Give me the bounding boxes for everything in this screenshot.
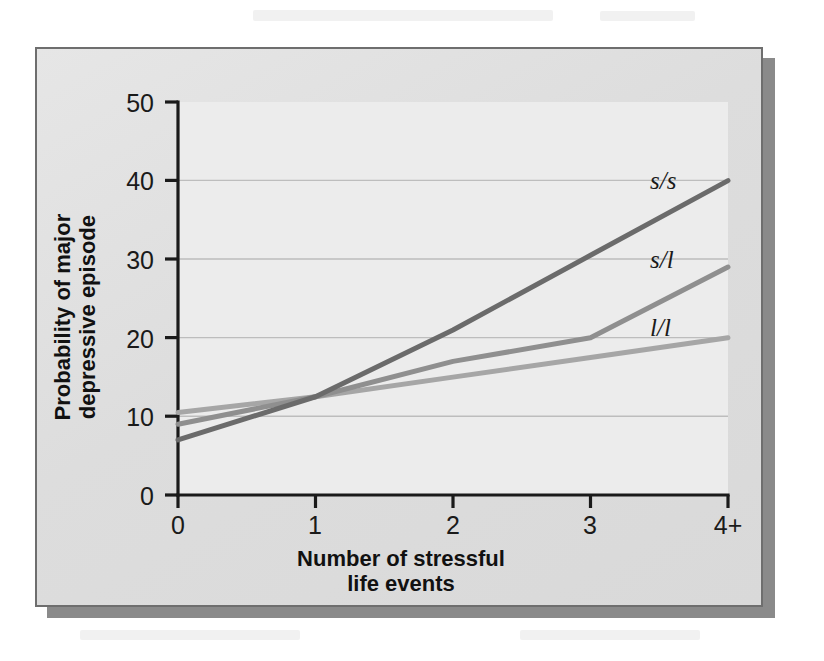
figure-plate: 50 40 30 20 10 0 0 1 2 3 4+ s/s s/l l/l … xyxy=(35,47,763,607)
y-tick-label-30: 30 xyxy=(99,246,154,275)
x-tick-label-4plus: 4+ xyxy=(698,511,758,540)
plot-background xyxy=(178,102,728,495)
y-tick-label-20: 20 xyxy=(99,325,154,354)
x-axis-title-line2: life events xyxy=(37,572,765,597)
x-axis-title-line1: Number of stressful xyxy=(37,547,765,572)
series-label-ss: s/s xyxy=(650,167,676,195)
y-tick-label-10: 10 xyxy=(99,403,154,432)
x-tick-label-1: 1 xyxy=(285,511,345,540)
series-label-sl: s/l xyxy=(650,246,674,274)
y-tick-label-40: 40 xyxy=(99,167,154,196)
x-axis-title: Number of stressful life events xyxy=(37,547,765,596)
y-tick-label-0: 0 xyxy=(99,482,154,511)
x-axis-ticks xyxy=(178,495,728,508)
x-tick-label-0: 0 xyxy=(148,511,208,540)
chart-area: 50 40 30 20 10 0 0 1 2 3 4+ s/s s/l l/l … xyxy=(37,49,761,605)
series-label-ll: l/l xyxy=(650,314,671,342)
y-axis-title-line1: Probability of major xyxy=(50,157,75,477)
y-axis-title: Probability of major depressive episode xyxy=(50,157,100,477)
y-tick-label-50: 50 xyxy=(99,89,154,118)
x-tick-label-2: 2 xyxy=(423,511,483,540)
y-axis-ticks xyxy=(165,102,178,495)
y-axis-title-line2: depressive episode xyxy=(75,157,100,477)
x-tick-label-3: 3 xyxy=(560,511,620,540)
